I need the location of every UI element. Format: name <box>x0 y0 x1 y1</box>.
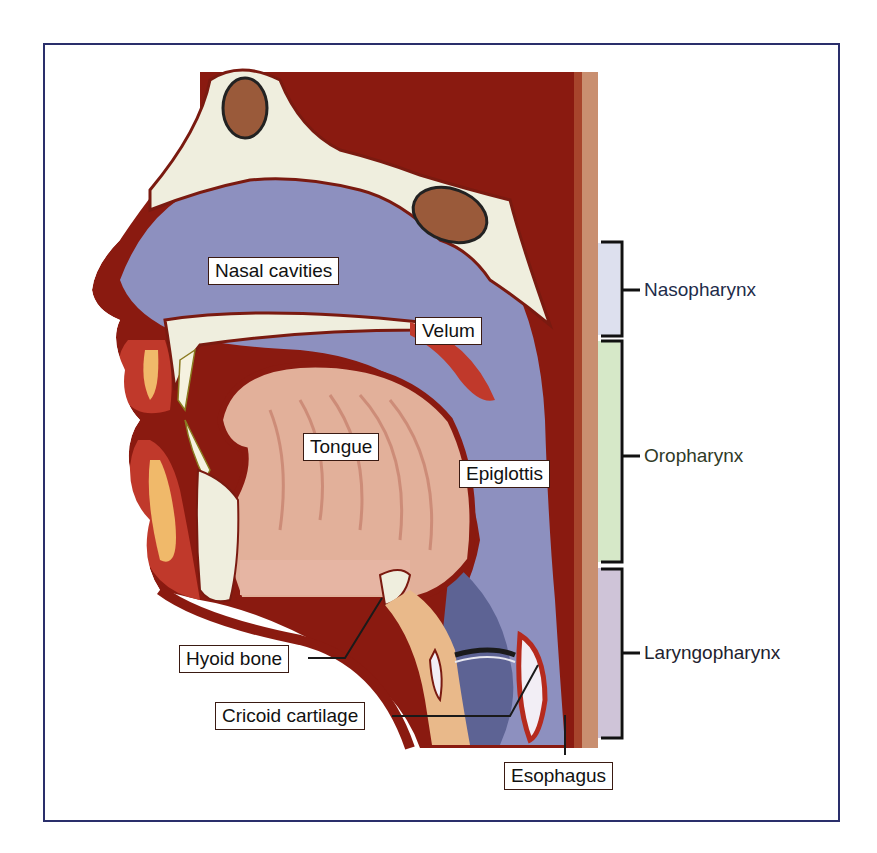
region-label-laryngopharynx: Laryngopharynx <box>644 642 780 664</box>
label-esophagus: Esophagus <box>504 762 613 790</box>
anatomy-illustration <box>0 0 877 853</box>
label-hyoid-bone: Hyoid bone <box>179 645 289 673</box>
region-label-oropharynx: Oropharynx <box>644 445 743 467</box>
label-cricoid-cartilage: Cricoid cartilage <box>215 702 365 730</box>
label-tongue: Tongue <box>303 433 379 461</box>
label-velum: Velum <box>415 317 482 345</box>
label-nasal-cavities: Nasal cavities <box>208 257 339 285</box>
label-epiglottis: Epiglottis <box>459 460 550 488</box>
region-label-nasopharynx: Nasopharynx <box>644 279 756 301</box>
